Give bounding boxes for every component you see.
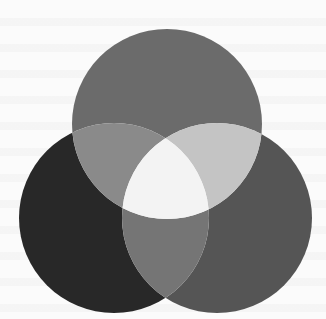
venn-diagram-canvas (0, 0, 326, 319)
venn-diagram (0, 0, 326, 319)
